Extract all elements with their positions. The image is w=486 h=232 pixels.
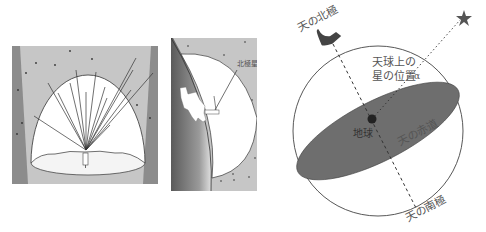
panel-celestial-sphere: 天の北極 天球上の 星の位置 α 地球 天の赤道 天の南極 [284, 2, 472, 225]
panel-earth: 北極星 [171, 38, 259, 191]
panel-dome [12, 46, 158, 184]
rotation-arrow-icon [318, 30, 341, 45]
earth-label: 地球 [353, 127, 373, 139]
observer-figure [83, 153, 88, 165]
earth-dot [368, 115, 377, 124]
star-position-label-line1: 天球上の [372, 55, 416, 69]
polaris-label: 北極星 [237, 59, 258, 68]
alpha-label: α [414, 71, 420, 81]
diagram-canvas: 北極星 天の北極 天球上の 星の位置 α 地球 天の赤道 天の南極 [0, 0, 486, 232]
star-position-label-line2: 星の位置 [372, 69, 416, 83]
star-icon [456, 10, 472, 26]
observer-figure [205, 110, 219, 114]
